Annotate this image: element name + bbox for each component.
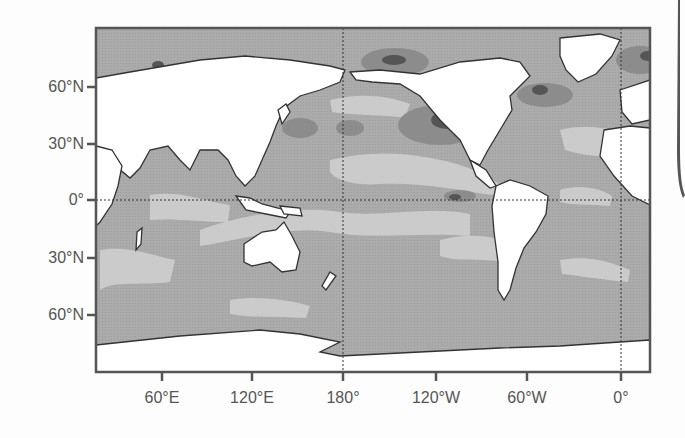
map-plot: [0, 0, 685, 438]
x-tick-label-60e: 60°E: [127, 390, 197, 406]
x-tick-label-60w: 60°W: [492, 390, 562, 406]
x-tick-label-120e: 120°E: [217, 390, 287, 406]
y-tick-label-30s: 30°N: [14, 250, 84, 266]
y-tick-label-60n: 60°N: [14, 79, 84, 95]
y-ticks: [87, 87, 96, 315]
y-tick-label-0: 0°: [14, 192, 84, 208]
y-tick-label-30n: 30°N: [14, 136, 84, 152]
map-area: [96, 28, 664, 372]
x-tick-label-0: 0°: [586, 390, 656, 406]
map-figure: 60°N 30°N 0° 30°N 60°N 60°E 120°E 180° 1…: [0, 0, 685, 438]
x-tick-label-120w: 120°W: [401, 390, 471, 406]
page-edge-shadow: [674, 0, 685, 200]
y-tick-label-60s: 60°N: [14, 307, 84, 323]
x-tick-label-180: 180°: [308, 390, 378, 406]
x-ticks: [162, 372, 621, 381]
